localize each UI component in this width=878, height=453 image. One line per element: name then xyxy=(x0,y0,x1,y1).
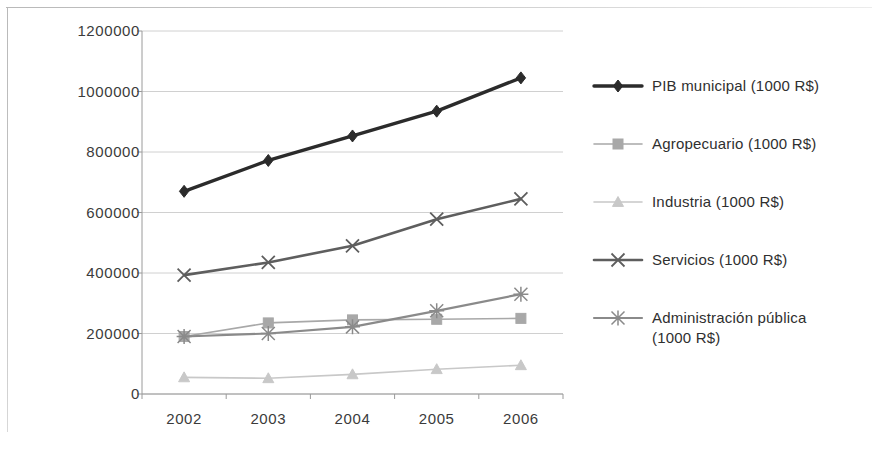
legend-item-label: Servicios (1000 R$) xyxy=(652,250,788,270)
square-marker-icon xyxy=(516,313,526,323)
star-marker-icon xyxy=(345,319,360,334)
diamond-marker-icon xyxy=(516,72,525,84)
y-axis-tick-label: 1000000 xyxy=(20,84,140,99)
legend-item-label: Industria (1000 R$) xyxy=(652,192,784,212)
square-marker-icon xyxy=(613,139,623,149)
y-axis-tick-label: 200000 xyxy=(20,326,140,341)
x-axis-tick-label: 2004 xyxy=(313,410,393,427)
star-marker-icon xyxy=(177,329,192,344)
x-axis-tick-label: 2002 xyxy=(144,410,224,427)
legend-item[interactable]: Administración pública (1000 R$) xyxy=(592,308,878,348)
legend-item-label: Agropecuario (1000 R$) xyxy=(652,134,817,154)
x-axis-tick-label: 2005 xyxy=(397,410,477,427)
y-axis-tick-labels: 120000010000008000006000004000002000000 xyxy=(14,0,140,453)
diamond-marker-icon xyxy=(432,105,441,117)
diamond-marker-icon xyxy=(179,185,188,197)
y-axis-tick-label: 0 xyxy=(20,386,140,401)
legend-item[interactable]: PIB municipal (1000 R$) xyxy=(592,76,878,96)
y-axis-tick-label: 1200000 xyxy=(20,23,140,38)
y-axis-tick-label: 800000 xyxy=(20,144,140,159)
legend-item[interactable]: Servicios (1000 R$) xyxy=(592,250,878,270)
square-marker-icon xyxy=(592,135,644,153)
diamond-marker-icon xyxy=(592,77,644,95)
cross-marker-icon xyxy=(592,251,644,269)
series-line xyxy=(184,199,521,275)
legend-item-label: PIB municipal (1000 R$) xyxy=(652,76,819,96)
x-axis-tick-labels: 20022003200420052006 xyxy=(0,410,878,440)
x-axis-tick-label: 2006 xyxy=(481,410,561,427)
chart-series-3 xyxy=(178,192,528,281)
star-marker-icon xyxy=(261,326,276,341)
chart-series-2 xyxy=(179,360,527,383)
diamond-marker-icon xyxy=(348,130,357,142)
chart-series-0 xyxy=(179,72,525,197)
y-axis-tick-label: 400000 xyxy=(20,265,140,280)
y-axis-tick-label: 600000 xyxy=(20,205,140,220)
legend-item[interactable]: Industria (1000 R$) xyxy=(592,192,878,212)
x-axis-tick-label: 2003 xyxy=(228,410,308,427)
star-marker-icon xyxy=(429,303,444,318)
triangle-marker-icon xyxy=(592,193,644,211)
diamond-marker-icon xyxy=(264,154,273,166)
diamond-marker-icon xyxy=(613,80,622,92)
star-marker-icon xyxy=(611,311,626,326)
star-marker-icon xyxy=(513,287,528,302)
legend-item[interactable]: Agropecuario (1000 R$) xyxy=(592,134,878,154)
star-marker-icon xyxy=(592,309,644,327)
legend-item-label: Administración pública (1000 R$) xyxy=(652,308,806,348)
